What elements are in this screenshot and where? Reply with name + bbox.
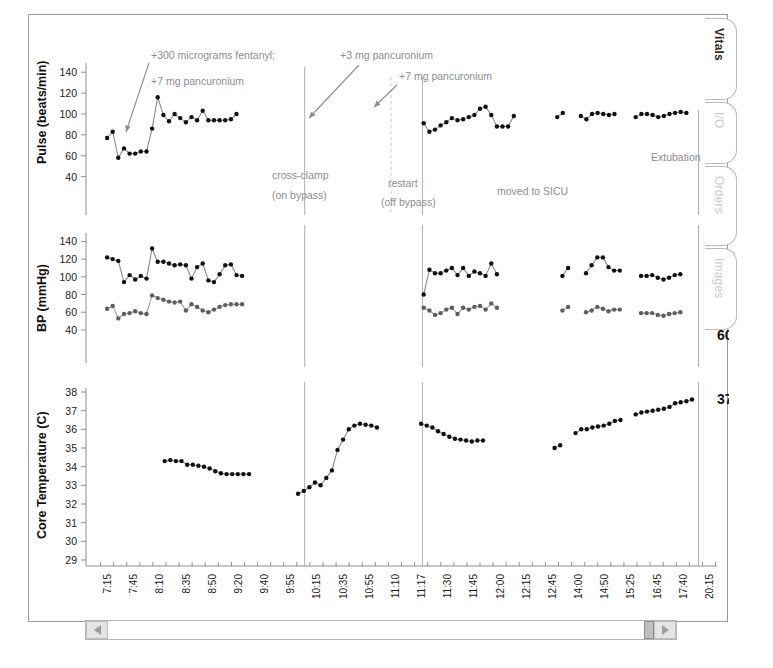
data-point <box>679 110 683 114</box>
bp-panel: BP (mmHg) 40608010012014010160 <box>29 215 729 375</box>
data-point <box>573 431 577 435</box>
data-point <box>105 255 109 259</box>
data-point <box>472 305 476 309</box>
data-point <box>467 274 471 278</box>
annotation-arrow <box>309 65 359 118</box>
data-point <box>116 156 120 160</box>
data-point <box>590 112 594 116</box>
data-point <box>495 124 499 128</box>
scroll-left-button[interactable] <box>86 621 108 639</box>
x-tick-label: 11:17 <box>416 574 427 599</box>
data-point <box>444 307 448 311</box>
y-tick-label: 37 <box>65 405 77 417</box>
data-point <box>133 309 137 313</box>
data-point <box>673 273 677 277</box>
data-point <box>223 303 227 307</box>
data-point <box>240 302 244 306</box>
data-point <box>595 111 599 115</box>
data-point <box>489 261 493 265</box>
vitals-chart-window: Pulse (beats/min) 406080100120140101+300… <box>28 14 728 622</box>
data-point <box>172 263 176 267</box>
data-point <box>430 425 434 429</box>
data-point <box>433 127 437 131</box>
x-tick-label: 11:30 <box>442 574 453 599</box>
data-point <box>489 301 493 305</box>
event-label-restart-line2: (off bypass) <box>381 196 436 208</box>
data-point <box>184 308 188 312</box>
data-point <box>639 410 643 414</box>
y-tick-label: 100 <box>59 271 77 283</box>
data-point <box>433 313 437 317</box>
tab-vitals[interactable]: Vitals <box>705 18 737 100</box>
data-point <box>223 263 227 267</box>
x-tick-label: 20:15 <box>704 574 715 599</box>
data-point <box>606 265 610 269</box>
data-point <box>472 113 476 117</box>
scrollbar-thumb[interactable] <box>644 621 654 639</box>
data-point <box>639 112 643 116</box>
data-point <box>212 118 216 122</box>
y-tick-label: 60 <box>65 306 77 318</box>
data-point <box>419 422 423 426</box>
data-point <box>105 136 109 140</box>
y-tick-label: 32 <box>65 498 77 510</box>
data-point <box>667 405 671 409</box>
data-point <box>589 263 593 267</box>
pulse-panel: Pulse (beats/min) 406080100120140101+300… <box>29 15 729 221</box>
data-point <box>483 105 487 109</box>
data-point <box>178 262 182 266</box>
data-point <box>656 408 660 412</box>
data-point <box>455 273 459 277</box>
event-label-cross-clamp-line2: (on bypass) <box>272 189 327 201</box>
data-point <box>467 115 471 119</box>
y-tick-label: 35 <box>65 442 77 454</box>
data-point <box>163 459 167 463</box>
data-point <box>375 425 379 429</box>
data-point <box>684 111 688 115</box>
data-point <box>195 305 199 309</box>
data-point <box>144 276 148 280</box>
scrollbar-track[interactable] <box>108 621 654 639</box>
annotation-pancuronium3-line1: +3 mg pancuronium <box>340 49 433 61</box>
data-point <box>438 311 442 315</box>
tab-io[interactable]: I/O <box>705 102 737 164</box>
data-point <box>219 471 223 475</box>
x-tick-label: 12:00 <box>495 574 506 599</box>
data-point <box>168 458 172 462</box>
data-point <box>679 400 683 404</box>
data-point <box>561 111 565 115</box>
bp-axis-title: BP (mmHg) <box>35 243 51 353</box>
annotation-fentanyl-line2: +7 mg pancuronium <box>151 75 244 87</box>
data-point <box>363 423 367 427</box>
y-tick-label: 80 <box>65 129 77 141</box>
y-tick-label: 31 <box>65 517 77 529</box>
x-tick-label: 8:50 <box>207 574 218 594</box>
scroll-right-button[interactable] <box>654 621 676 639</box>
data-point <box>324 476 328 480</box>
data-point <box>453 437 457 441</box>
data-point <box>212 307 216 311</box>
data-point <box>478 107 482 111</box>
data-point <box>656 115 660 119</box>
data-point <box>584 310 588 314</box>
data-point <box>662 407 666 411</box>
y-tick-label: 36 <box>65 423 77 435</box>
x-tick-label: 8:35 <box>181 574 192 594</box>
tab-io-label: I/O <box>712 112 726 129</box>
tab-images[interactable]: Images <box>705 248 737 330</box>
data-point <box>234 273 238 277</box>
data-point <box>217 118 221 122</box>
data-point <box>172 112 176 116</box>
y-tick-label: 60 <box>65 150 77 162</box>
tab-orders[interactable]: Orders <box>705 166 737 246</box>
data-point <box>450 306 454 310</box>
data-point <box>318 483 322 487</box>
data-point <box>122 312 126 316</box>
data-point <box>673 111 677 115</box>
data-point <box>139 274 143 278</box>
horizontal-scrollbar[interactable] <box>85 620 677 640</box>
data-point <box>455 312 459 316</box>
data-point <box>122 280 126 284</box>
data-point <box>472 269 476 273</box>
data-point <box>595 255 599 259</box>
